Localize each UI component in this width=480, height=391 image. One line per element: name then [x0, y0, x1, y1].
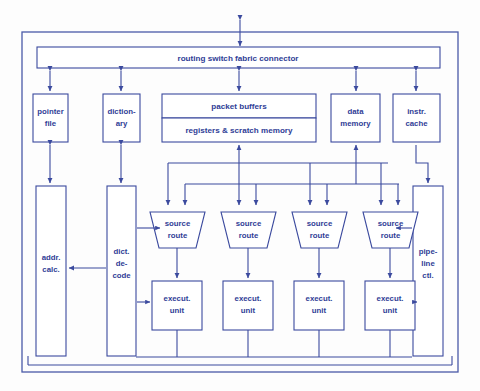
label-pointer-file-line1: pointer: [37, 107, 63, 116]
label-pointer-file-line2: file: [45, 119, 57, 128]
label-routing-connector: routing switch fabric connector: [178, 54, 300, 63]
label-data-memory-line2: memory: [340, 119, 371, 128]
label-execut-unit-4-line2: unit: [383, 306, 398, 315]
label-source-route-2-line2: route: [239, 231, 259, 240]
label-addr-calc-line1: addr.: [42, 253, 61, 262]
block-source-route-2[interactable]: [221, 212, 276, 248]
block-source-route-4[interactable]: [363, 212, 418, 248]
execut-unit-result-bus: [136, 330, 412, 357]
label-source-route-2-line1: source: [236, 219, 262, 228]
label-instr-cache-line1: instr.: [407, 107, 426, 116]
block-pointer-file[interactable]: [33, 94, 68, 142]
label-execut-unit-2-line2: unit: [241, 306, 256, 315]
label-source-route-1-line2: route: [168, 231, 188, 240]
label-dictionary-line1: diction-: [107, 107, 136, 116]
block-diagram: routing switch fabric connector pointer …: [0, 0, 480, 391]
label-dictionary-line2: ary: [116, 119, 128, 128]
label-pipeline-ctl-line3: ctl.: [422, 271, 433, 280]
label-source-route-4-line2: route: [381, 231, 401, 240]
label-execut-unit-4-line1: execut.: [377, 294, 404, 303]
block-source-route-3[interactable]: [292, 212, 347, 248]
label-execut-unit-3-line2: unit: [312, 306, 327, 315]
label-registers-scratch-memory: registers & scratch memory: [185, 126, 293, 135]
label-source-route-3-line1: source: [307, 219, 333, 228]
block-dictionary[interactable]: [103, 94, 140, 142]
block-instr-cache[interactable]: [393, 94, 440, 142]
label-packet-buffers: packet buffers: [211, 102, 267, 111]
label-execut-unit-3-line1: execut.: [306, 294, 333, 303]
label-addr-calc-line2: calc.: [42, 265, 59, 274]
label-source-route-4-line1: source: [378, 219, 404, 228]
label-source-route-1-line1: source: [165, 219, 191, 228]
label-execut-unit-1-line1: execut.: [164, 294, 191, 303]
label-instr-cache-line2: cache: [405, 119, 428, 128]
label-dict-decode-line1: dict.: [113, 247, 129, 256]
label-pipeline-ctl-line2: line: [421, 259, 435, 268]
label-dict-decode-line3: code: [112, 271, 131, 280]
data-memory-bus: [185, 145, 399, 205]
block-source-route-1[interactable]: [150, 212, 205, 248]
label-execut-unit-1-line2: unit: [170, 306, 185, 315]
label-execut-unit-2-line1: execut.: [235, 294, 262, 303]
label-data-memory-line1: data: [347, 107, 364, 116]
diagram-canvas: routing switch fabric connector pointer …: [0, 0, 480, 391]
label-dict-decode-line2: de-: [116, 259, 128, 268]
label-pipeline-ctl-line1: pipe-: [419, 247, 438, 256]
block-data-memory[interactable]: [331, 94, 380, 142]
instr-cache-to-pipeline-ctl-link: [416, 145, 428, 183]
label-source-route-3-line2: route: [310, 231, 330, 240]
packet-buffer-bus: [168, 145, 388, 205]
